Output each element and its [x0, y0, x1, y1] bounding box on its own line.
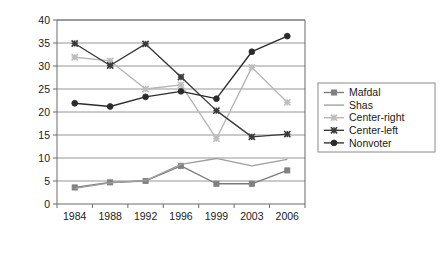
- x-tick-label: 2003: [240, 210, 264, 222]
- legend-label: Mafdal: [349, 86, 381, 98]
- x-tick-label: 1992: [134, 210, 158, 222]
- data-point-3-0: [72, 40, 78, 46]
- data-point-legend-2: [331, 115, 337, 121]
- data-point-2-2: [142, 86, 148, 92]
- data-point-2-0: [72, 54, 78, 60]
- data-point-4-0: [72, 100, 78, 106]
- y-tick-label: 0: [44, 198, 50, 210]
- data-point-0-4: [214, 181, 219, 186]
- data-point-3-3: [178, 74, 184, 80]
- data-point-3-1: [107, 62, 113, 68]
- y-tick-label: 15: [38, 129, 50, 141]
- chart-canvas: 0510152025303540 19841988199219961999200…: [0, 0, 443, 253]
- legend-label: Shas: [349, 99, 373, 111]
- x-tick-label: 1996: [169, 210, 193, 222]
- x-tick-label: 1988: [98, 210, 122, 222]
- data-point-3-6: [284, 131, 290, 137]
- data-point-2-4: [213, 136, 219, 142]
- y-tick-label: 20: [38, 106, 50, 118]
- data-point-3-4: [213, 108, 219, 114]
- data-point-0-5: [249, 181, 254, 186]
- y-tick-label: 25: [38, 83, 50, 95]
- legend-label: Center-right: [349, 111, 405, 123]
- chart-legend: MafdalShasCenter-rightCenter-leftNonvote…: [318, 83, 435, 152]
- y-tick-label: 30: [38, 60, 50, 72]
- x-tick-label: 1999: [205, 210, 229, 222]
- data-point-2-5: [249, 64, 255, 70]
- data-point-0-6: [285, 168, 290, 173]
- data-point-4-3: [178, 88, 184, 94]
- x-tick-label: 2006: [276, 210, 300, 222]
- data-point-4-1: [107, 104, 113, 110]
- data-point-legend-4: [331, 140, 337, 146]
- y-tick-label: 10: [38, 152, 50, 164]
- line-chart: 0510152025303540 19841988199219961999200…: [0, 0, 443, 253]
- data-point-3-5: [249, 134, 255, 140]
- data-point-4-2: [143, 94, 149, 100]
- y-tick-label: 40: [38, 14, 50, 26]
- data-point-legend-0: [331, 90, 336, 95]
- data-point-4-6: [284, 33, 290, 39]
- legend-label: Nonvoter: [349, 137, 392, 149]
- y-tick-label: 5: [44, 175, 50, 187]
- x-tick-label: 1984: [63, 210, 87, 222]
- legend-label: Center-left: [349, 124, 398, 136]
- data-point-3-2: [142, 41, 148, 47]
- data-point-2-6: [284, 99, 290, 105]
- data-point-legend-3: [331, 127, 337, 133]
- data-point-4-5: [249, 49, 255, 55]
- data-point-4-4: [214, 96, 220, 102]
- y-tick-label: 35: [38, 37, 50, 49]
- data-point-2-3: [178, 82, 184, 88]
